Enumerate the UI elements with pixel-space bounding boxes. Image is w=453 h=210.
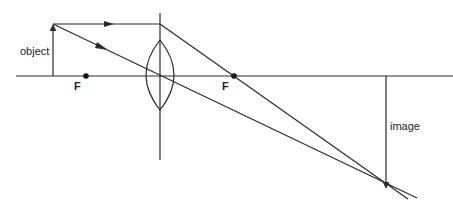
arrowhead-central-ray [95,42,108,50]
object-label: object [20,45,49,57]
image-label: image [390,120,420,132]
focal-label-left: F [74,80,81,92]
ray-diagram: object F F image [0,0,453,210]
central-ray [53,24,417,198]
focal-point-left [83,73,89,79]
focal-label-right: F [222,80,229,92]
arrowhead-parallel-ray [104,21,114,27]
refracted-ray [160,24,408,199]
